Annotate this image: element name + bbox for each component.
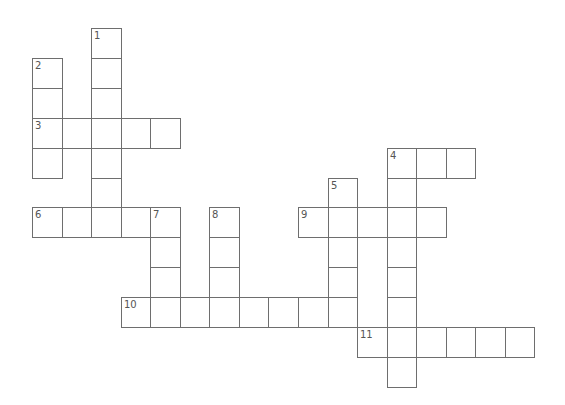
crossword-cell[interactable] <box>91 207 122 238</box>
crossword-cell[interactable] <box>121 118 151 149</box>
crossword-cell[interactable] <box>209 237 240 268</box>
crossword-cell[interactable] <box>91 88 122 119</box>
crossword-cell[interactable] <box>328 237 358 268</box>
crossword-cell[interactable] <box>268 297 299 328</box>
clue-number: 4 <box>390 151 396 161</box>
clue-number: 7 <box>153 210 159 220</box>
crossword-cell[interactable]: 6 <box>32 207 63 238</box>
crossword-cell[interactable] <box>239 297 269 328</box>
crossword-cell[interactable] <box>387 357 417 388</box>
crossword-cell[interactable]: 11 <box>357 327 388 358</box>
crossword-cell[interactable] <box>446 327 476 358</box>
crossword-cell[interactable] <box>180 297 210 328</box>
crossword-cell[interactable] <box>150 297 181 328</box>
crossword-cell[interactable] <box>446 148 476 179</box>
clue-number: 2 <box>35 61 41 71</box>
crossword-cell[interactable] <box>209 267 240 298</box>
crossword-cell[interactable] <box>505 327 535 358</box>
clue-number: 3 <box>35 121 41 131</box>
clue-number: 1 <box>94 31 100 41</box>
crossword-cell[interactable] <box>328 267 358 298</box>
crossword-cell[interactable] <box>387 207 417 238</box>
crossword-cell[interactable]: 9 <box>298 207 329 238</box>
crossword-cell[interactable] <box>209 297 240 328</box>
crossword-cell[interactable] <box>150 267 181 298</box>
crossword-cell[interactable] <box>121 207 151 238</box>
crossword-cell[interactable] <box>150 118 181 149</box>
crossword-cell[interactable] <box>475 327 506 358</box>
clue-number: 5 <box>331 181 337 191</box>
crossword-cell[interactable] <box>357 207 388 238</box>
crossword-cell[interactable]: 7 <box>150 207 181 238</box>
crossword-cell[interactable]: 3 <box>32 118 63 149</box>
crossword-cell[interactable] <box>328 207 358 238</box>
crossword-cell[interactable] <box>416 327 447 358</box>
crossword-cell[interactable] <box>91 58 122 89</box>
crossword-cell[interactable] <box>32 88 63 119</box>
crossword-cell[interactable] <box>91 148 122 179</box>
crossword-cell[interactable]: 4 <box>387 148 417 179</box>
crossword-cell[interactable]: 5 <box>328 178 358 208</box>
crossword-cell[interactable] <box>416 207 447 238</box>
crossword-grid: 1234567891011 <box>0 0 565 405</box>
crossword-cell[interactable] <box>91 178 122 208</box>
crossword-cell[interactable]: 1 <box>91 28 122 59</box>
crossword-cell[interactable]: 10 <box>121 297 151 328</box>
crossword-cell[interactable] <box>62 118 92 149</box>
clue-number: 10 <box>124 300 137 310</box>
crossword-cell[interactable] <box>328 297 358 328</box>
crossword-cell[interactable] <box>150 237 181 268</box>
crossword-cell[interactable] <box>387 327 417 358</box>
clue-number: 8 <box>212 210 218 220</box>
crossword-cell[interactable] <box>62 207 92 238</box>
clue-number: 11 <box>360 330 373 340</box>
clue-number: 6 <box>35 210 41 220</box>
crossword-cell[interactable] <box>298 297 329 328</box>
crossword-cell[interactable]: 2 <box>32 58 63 89</box>
crossword-cell[interactable]: 8 <box>209 207 240 238</box>
crossword-cell[interactable] <box>387 297 417 328</box>
crossword-cell[interactable] <box>387 178 417 208</box>
clue-number: 9 <box>301 210 307 220</box>
crossword-cell[interactable] <box>416 148 447 179</box>
crossword-cell[interactable] <box>387 267 417 298</box>
crossword-cell[interactable] <box>387 237 417 268</box>
crossword-cell[interactable] <box>91 118 122 149</box>
crossword-cell[interactable] <box>32 148 63 179</box>
